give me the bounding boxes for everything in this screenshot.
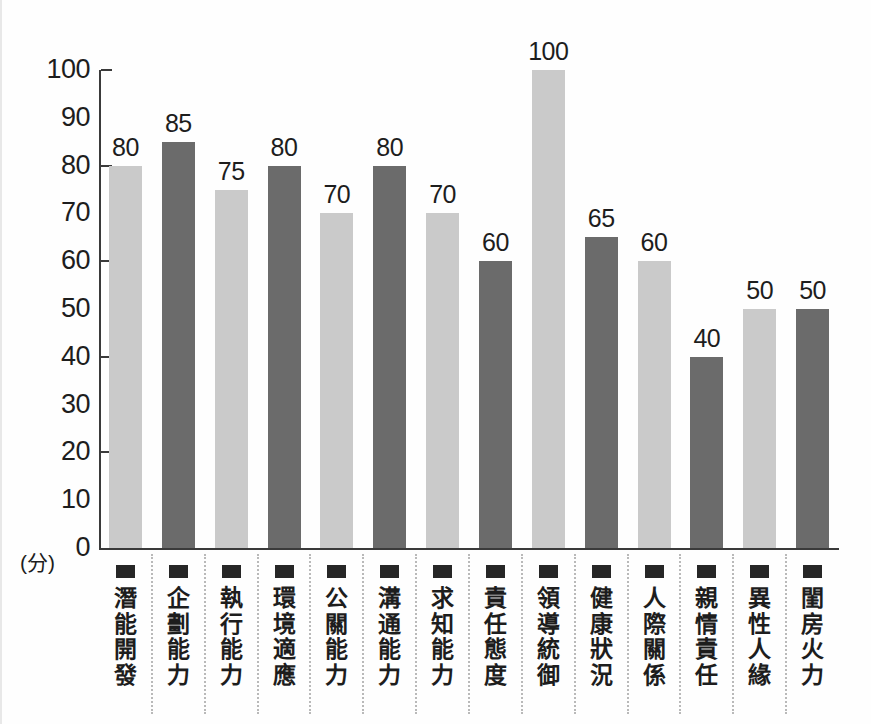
category-label-strip: 潛能開發企劃能力執行能力環境適應公關能力溝通能力求知能力責任態度領導統御健康狀況…	[99, 552, 839, 720]
bar-slot: 75	[208, 70, 255, 548]
category-separator	[785, 554, 787, 714]
category-column[interactable]: 公關能力	[313, 552, 360, 720]
bar-slot: 60	[472, 70, 519, 548]
category-separator	[151, 554, 153, 714]
plot-area: 80857580708070601006560405050	[99, 70, 839, 548]
category-label: 異性人緣	[736, 586, 783, 688]
bar-value-label: 60	[623, 230, 686, 255]
category-separator	[574, 554, 576, 714]
category-separator	[257, 554, 259, 714]
bar-value-label: 70	[305, 182, 368, 207]
y-tick-label-0: 0	[75, 534, 90, 561]
y-tick-label-40: 40	[61, 343, 90, 370]
bar[interactable]	[743, 309, 776, 548]
category-marker-icon	[222, 565, 241, 578]
category-label: 健康狀況	[578, 586, 625, 688]
category-column[interactable]: 健康狀況	[578, 552, 625, 720]
category-column[interactable]: 溝通能力	[366, 552, 413, 720]
chart-page: 1009080706050403020100 (分) 8085758070807…	[0, 0, 871, 724]
category-marker-icon	[486, 565, 505, 578]
category-marker-icon	[592, 565, 611, 578]
bar[interactable]	[479, 261, 512, 548]
category-separator	[679, 554, 681, 714]
y-tick-label-50: 50	[61, 295, 90, 322]
bar-slot: 50	[736, 70, 783, 548]
category-marker-icon	[169, 565, 188, 578]
category-separator	[204, 554, 206, 714]
category-label: 公關能力	[313, 586, 360, 688]
bar[interactable]	[426, 213, 459, 548]
category-label: 求知能力	[419, 586, 466, 688]
y-tick-label-100: 100	[46, 56, 90, 83]
y-axis-unit-label: (分)	[20, 552, 55, 573]
category-column[interactable]: 親情責任	[683, 552, 730, 720]
bar[interactable]	[109, 166, 142, 548]
category-column[interactable]: 企劃能力	[155, 552, 202, 720]
bar-value-label: 40	[675, 326, 738, 351]
bar-slot: 80	[366, 70, 413, 548]
category-marker-icon	[433, 565, 452, 578]
bar-slot: 65	[578, 70, 625, 548]
category-marker-icon	[750, 565, 769, 578]
category-label: 溝通能力	[366, 586, 413, 688]
bar-value-label: 100	[517, 39, 580, 64]
category-column[interactable]: 閨房火力	[789, 552, 836, 720]
category-label: 領導統御	[525, 586, 572, 688]
y-tick-label-90: 90	[61, 104, 90, 131]
bar-value-label: 80	[94, 135, 157, 160]
category-separator	[415, 554, 417, 714]
category-column[interactable]: 領導統御	[525, 552, 572, 720]
category-column[interactable]: 環境適應	[261, 552, 308, 720]
category-marker-icon	[697, 565, 716, 578]
category-label: 親情責任	[683, 586, 730, 688]
bar-slot: 70	[313, 70, 360, 548]
category-marker-icon	[803, 565, 822, 578]
bar-value-label: 70	[411, 182, 474, 207]
category-column[interactable]: 執行能力	[208, 552, 255, 720]
bar-value-label: 65	[570, 206, 633, 231]
category-separator	[521, 554, 523, 714]
category-column[interactable]: 責任態度	[472, 552, 519, 720]
bar-slot: 60	[631, 70, 678, 548]
bar-value-label: 60	[464, 230, 527, 255]
y-tick-label-60: 60	[61, 247, 90, 274]
category-separator	[309, 554, 311, 714]
bar-slot: 80	[261, 70, 308, 548]
category-separator	[627, 554, 629, 714]
bar[interactable]	[162, 142, 195, 548]
bar[interactable]	[532, 70, 565, 548]
bar-value-label: 50	[781, 278, 844, 303]
bar-value-label: 80	[253, 135, 316, 160]
category-marker-icon	[327, 565, 346, 578]
category-separator	[362, 554, 364, 714]
bar[interactable]	[268, 166, 301, 548]
bar[interactable]	[373, 166, 406, 548]
bar-value-label: 75	[200, 159, 263, 184]
category-marker-icon	[645, 565, 664, 578]
category-marker-icon	[539, 565, 558, 578]
category-label: 潛能開發	[102, 586, 149, 688]
category-label: 執行能力	[208, 586, 255, 688]
bar-value-label: 80	[358, 135, 421, 160]
bar[interactable]	[320, 213, 353, 548]
bar-slot: 80	[102, 70, 149, 548]
bar[interactable]	[585, 237, 618, 548]
bar[interactable]	[796, 309, 829, 548]
y-tick-label-10: 10	[61, 486, 90, 513]
bar[interactable]	[690, 357, 723, 548]
y-tick-label-30: 30	[61, 391, 90, 418]
y-tick-label-70: 70	[61, 199, 90, 226]
category-column[interactable]: 潛能開發	[102, 552, 149, 720]
x-axis-line	[99, 548, 839, 550]
category-separator	[732, 554, 734, 714]
category-column[interactable]: 異性人緣	[736, 552, 783, 720]
category-column[interactable]: 求知能力	[419, 552, 466, 720]
bar[interactable]	[215, 190, 248, 549]
y-tick-label-20: 20	[61, 438, 90, 465]
category-column[interactable]: 人際關係	[631, 552, 678, 720]
bar-slot: 50	[789, 70, 836, 548]
category-marker-icon	[116, 565, 135, 578]
category-label: 環境適應	[261, 586, 308, 688]
bar-slot: 40	[683, 70, 730, 548]
bar[interactable]	[638, 261, 671, 548]
